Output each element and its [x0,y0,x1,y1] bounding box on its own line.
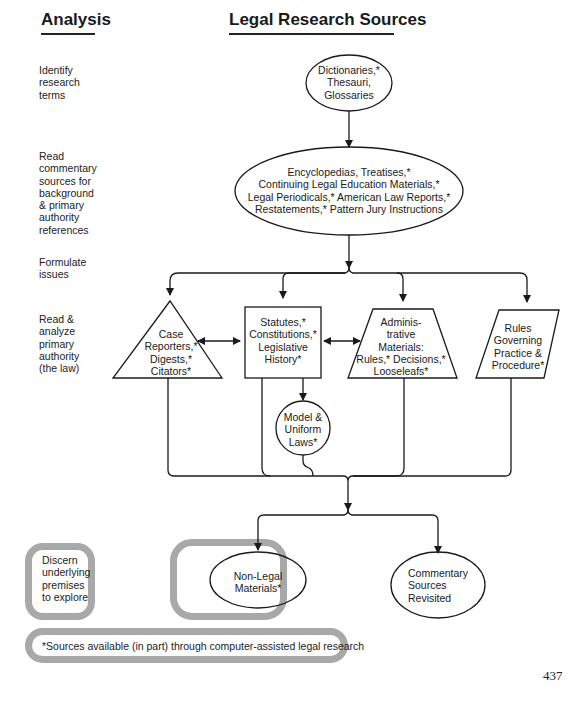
encyclopedias-node: Encyclopedias, Treatises,* Continuing Le… [229,166,469,215]
step-discern-premises: Discern underlying premises to explore [42,554,90,603]
statutes-node: Statutes,* Constitutions,* Legislative H… [243,316,323,365]
footnote-text: *Sources available (in part) through com… [42,640,364,652]
commentary-revisited-node: Commentary Sources Revisited [392,567,484,604]
administrative-node: Adminis- trative Materials: Rules,* Deci… [345,316,457,377]
model-laws-node: Model & Uniform Laws* [268,411,338,448]
page-number: 437 [543,668,563,684]
dictionaries-node: Dictionaries,* Thesauri, Glossaries [299,64,399,101]
non-legal-node: Non-Legal Materials* [210,570,306,595]
case-reporters-node: Case Reporters,* Digests,* Citators* [128,328,214,377]
rules-node: Rules Governing Practice & Procedure* [478,322,558,371]
